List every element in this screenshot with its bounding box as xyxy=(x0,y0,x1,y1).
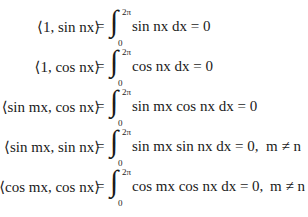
integral-sign-icon: ∫ xyxy=(110,6,118,36)
inner-product-lhs: ⟨sin mx, cos nx⟩ xyxy=(2,98,100,116)
upper-limit: 2π xyxy=(122,87,131,97)
equation-row-3: ⟨sin mx, cos nx⟩ = ∫ 2π 0 sin mx cos nx … xyxy=(0,88,308,128)
integral-sign-icon: ∫ xyxy=(110,86,118,116)
equals-sign: = xyxy=(96,178,104,195)
upper-limit: 2π xyxy=(122,127,131,137)
upper-limit: 2π xyxy=(122,47,131,57)
integral-sign-icon: ∫ xyxy=(110,126,118,156)
integral-sign-icon: ∫ xyxy=(110,166,118,196)
equals-sign: = xyxy=(96,98,104,115)
condition: m ≠ n xyxy=(270,178,305,195)
upper-limit: 2π xyxy=(122,167,131,177)
inner-product-lhs: ⟨1, cos nx⟩ xyxy=(35,58,100,76)
equals-sign: = xyxy=(96,58,104,75)
equals-sign: = xyxy=(96,138,104,155)
lower-limit: 0 xyxy=(118,198,123,208)
integrand: cos nx dx = 0 xyxy=(132,58,213,75)
equation-row-2: ⟨1, cos nx⟩ = ∫ 2π 0 cos nx dx = 0 xyxy=(0,48,308,88)
integrand: cos mx cos nx dx = 0, xyxy=(132,178,263,195)
upper-limit: 2π xyxy=(122,7,131,17)
equation-row-1: ⟨1, sin nx⟩ = ∫ 2π 0 sin nx dx = 0 xyxy=(0,8,308,48)
equals-sign: = xyxy=(96,18,104,35)
integrand: sin mx cos nx dx = 0 xyxy=(132,98,257,115)
inner-product-lhs: ⟨sin mx, sin nx⟩ xyxy=(4,138,100,156)
integrand: sin nx dx = 0 xyxy=(132,18,210,35)
inner-product-lhs: ⟨cos mx, cos nx⟩ xyxy=(0,178,100,196)
equation-row-4: ⟨sin mx, sin nx⟩ = ∫ 2π 0 sin mx sin nx … xyxy=(0,128,308,168)
integrand: sin mx sin nx dx = 0, xyxy=(132,138,258,155)
integral-sign-icon: ∫ xyxy=(110,46,118,76)
equation-row-5: ⟨cos mx, cos nx⟩ = ∫ 2π 0 cos mx cos nx … xyxy=(0,168,308,208)
inner-product-lhs: ⟨1, sin nx⟩ xyxy=(37,18,100,36)
condition: m ≠ n xyxy=(266,138,301,155)
